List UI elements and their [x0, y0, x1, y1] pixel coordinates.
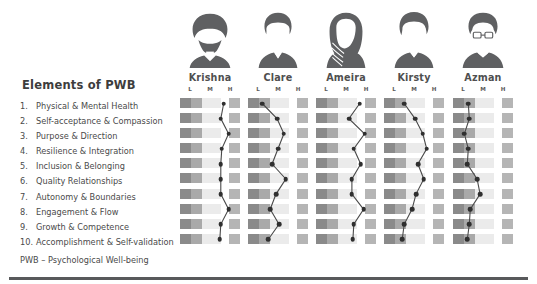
profile-row[interactable]	[384, 156, 444, 171]
element-row: 5.Inclusion & Belonging	[16, 159, 188, 174]
profile-row[interactable]	[384, 126, 444, 141]
profile-row[interactable]	[316, 156, 376, 171]
scale-cell	[202, 219, 221, 229]
profile-row[interactable]	[384, 111, 444, 126]
profile-row[interactable]	[180, 156, 240, 171]
profile-row[interactable]	[248, 111, 308, 126]
profile-row[interactable]	[316, 232, 376, 247]
profile-row[interactable]	[316, 96, 376, 111]
element-label: Physical & Mental Health	[36, 99, 138, 114]
scale-cell	[433, 158, 444, 168]
profile-row[interactable]	[248, 187, 308, 202]
profile-row[interactable]	[453, 232, 513, 247]
scale-cell	[270, 189, 289, 199]
profile-row[interactable]	[453, 141, 513, 156]
scale-cell	[464, 173, 475, 183]
profile-row[interactable]	[316, 217, 376, 232]
glasses-tie-avatar-icon	[455, 8, 511, 70]
profile-row[interactable]	[180, 217, 240, 232]
scale-cell	[464, 128, 475, 138]
profile-row[interactable]	[453, 187, 513, 202]
profile-row[interactable]	[248, 202, 308, 217]
scale-cell	[453, 234, 464, 244]
scale-cell	[297, 158, 308, 168]
profile-row[interactable]	[180, 126, 240, 141]
profile-row[interactable]	[453, 217, 513, 232]
scale-cell	[395, 189, 406, 199]
footnote: PWB – Psychological Well-being	[20, 255, 149, 265]
scale-cell	[229, 234, 240, 244]
scale-cell	[202, 173, 221, 183]
profile-row[interactable]	[180, 232, 240, 247]
short-hair-avatar-icon	[250, 8, 306, 70]
scale-cell	[475, 128, 494, 138]
profile-row[interactable]	[384, 217, 444, 232]
profile-row[interactable]	[248, 141, 308, 156]
scale-cell	[180, 173, 191, 183]
profile-row[interactable]	[316, 202, 376, 217]
scale-cell	[316, 204, 327, 214]
profile-row[interactable]	[180, 187, 240, 202]
profile-row[interactable]	[384, 96, 444, 111]
scale-cell	[248, 173, 259, 183]
scale-cell	[502, 219, 513, 229]
profile-row[interactable]	[248, 232, 308, 247]
profile-row[interactable]	[248, 217, 308, 232]
profile-row[interactable]	[384, 232, 444, 247]
scale-cell	[433, 234, 444, 244]
person-column-kirsty: KirstyLMH	[380, 8, 448, 247]
profile-row[interactable]	[316, 171, 376, 186]
profile-row[interactable]	[384, 187, 444, 202]
profile-row[interactable]	[180, 96, 240, 111]
profile-row[interactable]	[316, 111, 376, 126]
profile-row[interactable]	[180, 171, 240, 186]
profile-row[interactable]	[453, 202, 513, 217]
scale-cell	[180, 128, 191, 138]
scale-cell	[327, 234, 338, 244]
scale-cell	[270, 128, 289, 138]
profile-row[interactable]	[453, 171, 513, 186]
turban-beard-avatar-icon	[182, 8, 238, 70]
profile-row[interactable]	[248, 156, 308, 171]
scale-cell	[259, 189, 270, 199]
scale-cell	[464, 143, 475, 153]
profile-row[interactable]	[453, 126, 513, 141]
scale-label-m: M	[275, 86, 281, 92]
profile-row[interactable]	[180, 202, 240, 217]
element-row: 4.Resilience & Integration	[16, 144, 188, 159]
scale-cell	[433, 173, 444, 183]
element-row: 9.Growth & Competence	[16, 220, 188, 235]
scale-cell	[365, 158, 376, 168]
profile-row[interactable]	[248, 126, 308, 141]
scale-cell	[248, 204, 259, 214]
element-row: 7.Autonomy & Boundaries	[16, 190, 188, 205]
profile-row[interactable]	[180, 111, 240, 126]
profile-grid	[453, 96, 513, 247]
scale-cell	[384, 219, 395, 229]
scale-cell	[464, 189, 475, 199]
profile-row[interactable]	[453, 111, 513, 126]
profile-row[interactable]	[453, 156, 513, 171]
element-label: Engagement & Flow	[36, 205, 119, 220]
profile-row[interactable]	[384, 141, 444, 156]
scale-cell	[248, 158, 259, 168]
scale-cell	[453, 219, 464, 229]
profile-row[interactable]	[316, 141, 376, 156]
scale-cell	[248, 113, 259, 123]
scale-label-l: L	[392, 86, 396, 92]
scale-label-l: L	[256, 86, 260, 92]
profile-row[interactable]	[248, 96, 308, 111]
scale-label-h: H	[432, 86, 437, 92]
profile-row[interactable]	[316, 126, 376, 141]
profile-row[interactable]	[180, 141, 240, 156]
scale-cell	[316, 189, 327, 199]
scale-cell	[384, 98, 395, 108]
scale-cell	[338, 189, 357, 199]
profile-row[interactable]	[316, 187, 376, 202]
scale-cell	[297, 234, 308, 244]
profile-row[interactable]	[453, 96, 513, 111]
scale-cell	[270, 234, 289, 244]
profile-row[interactable]	[384, 171, 444, 186]
profile-row[interactable]	[384, 202, 444, 217]
profile-row[interactable]	[248, 171, 308, 186]
